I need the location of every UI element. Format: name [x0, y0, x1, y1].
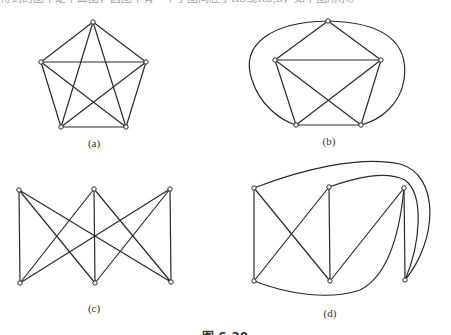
edge	[41, 62, 61, 127]
vertex	[169, 280, 173, 284]
graph-diagrams	[0, 0, 451, 335]
vertex	[91, 20, 95, 24]
vertex	[379, 58, 383, 62]
figure-label-b: (b)	[323, 135, 336, 147]
edge	[361, 60, 381, 125]
vertex	[59, 125, 63, 129]
vertex	[252, 279, 256, 283]
figure-label-a: (a)	[88, 137, 100, 149]
graph-d	[252, 161, 430, 295]
edge	[275, 21, 328, 60]
edge	[275, 60, 361, 125]
vertex	[144, 60, 148, 64]
edge	[93, 22, 146, 62]
edge	[296, 60, 381, 125]
edge	[41, 22, 93, 62]
vertex	[17, 188, 21, 192]
edge	[330, 188, 404, 281]
vertex	[92, 187, 96, 191]
edge	[329, 187, 330, 281]
figure-page: 得到的图不是平面图，因图中有一个子图同胚于K5或K3,3，如下图所示。 (a) …	[0, 0, 451, 335]
edge	[126, 62, 146, 127]
vertex	[403, 278, 407, 282]
vertex	[273, 58, 277, 62]
edge	[19, 190, 20, 283]
vertex	[93, 281, 97, 285]
edge	[93, 22, 126, 127]
edge	[41, 62, 126, 127]
figure-label-c: (c)	[88, 302, 100, 314]
graph-b	[249, 19, 404, 127]
vertex	[294, 123, 298, 127]
edge	[61, 22, 93, 127]
vertex	[124, 125, 128, 129]
figure-label-d: (d)	[324, 307, 337, 319]
vertex	[327, 185, 331, 189]
vertex	[168, 187, 172, 191]
graph-a	[39, 20, 148, 129]
figure-caption: 图 6-30	[202, 327, 248, 335]
vertex	[18, 281, 22, 285]
vertex	[39, 60, 43, 64]
edge	[328, 21, 381, 60]
vertex	[328, 279, 332, 283]
vertex	[359, 123, 363, 127]
edge	[170, 189, 171, 282]
vertex	[326, 19, 330, 23]
graph-c	[17, 187, 173, 285]
edge	[61, 62, 146, 127]
vertex	[252, 186, 256, 190]
edge	[404, 188, 405, 280]
vertex	[402, 186, 406, 190]
